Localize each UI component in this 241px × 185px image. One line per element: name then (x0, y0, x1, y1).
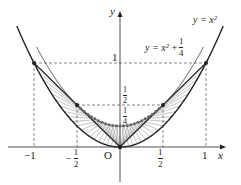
locus-dot (154, 110, 157, 113)
parabola-label: y = x² (193, 15, 217, 25)
locus-dot (158, 107, 161, 110)
origin-label: O (104, 150, 112, 161)
x-tick-neg-half: − 1 2 (66, 148, 78, 169)
x-axis-label: x (218, 150, 223, 161)
x-tick-1: 1 (202, 150, 208, 161)
x-tick-half: 1 2 (158, 148, 163, 169)
point-marker (32, 61, 36, 65)
locus-dot (133, 122, 136, 125)
parabola-diagram: y x O y = x² y = x² + 1 4 −1 − 1 2 1 2 1… (0, 0, 241, 185)
locus-dot (151, 113, 154, 116)
locus-dot (136, 121, 139, 124)
y-tick-half: 1 2 (123, 86, 127, 105)
locus-dot (97, 119, 100, 122)
locus-dot (129, 123, 132, 126)
locus-dot (144, 117, 147, 120)
point-marker (75, 103, 79, 107)
locus-dot (119, 125, 122, 128)
shifted-parabola-label: y = x² + 1 4 (145, 37, 183, 58)
y-axis-label: y (110, 6, 115, 17)
locus-dot (79, 107, 82, 110)
locus-dot (90, 115, 93, 118)
y-tick-quarter: 1 4 (123, 107, 127, 126)
locus-dot (83, 110, 86, 113)
locus-dot (108, 123, 111, 126)
y-tick-1: 1 (112, 52, 118, 63)
point-marker (161, 103, 165, 107)
locus-dot (93, 117, 96, 120)
y-axis-arrow-icon (118, 11, 123, 17)
locus-dot (147, 115, 150, 118)
locus-dot (104, 122, 107, 125)
locus-dot (86, 113, 89, 116)
point-marker (204, 61, 208, 65)
quarter-fraction: 1 4 (179, 37, 184, 58)
locus-dot (101, 121, 104, 124)
locus-dot (111, 124, 114, 127)
x-tick-neg-1: −1 (24, 150, 36, 161)
point-marker (118, 145, 122, 149)
locus-dot (140, 119, 143, 122)
locus-dot (115, 124, 118, 127)
